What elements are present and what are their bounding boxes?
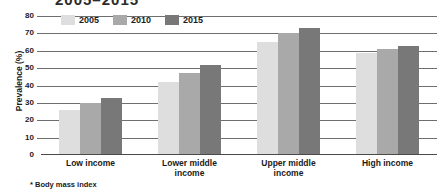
legend-label: 2015 (183, 16, 203, 25)
bar-group (41, 16, 140, 155)
bar-chart: 2005–2015 Prevalence (%) 807060504030201… (0, 0, 444, 192)
legend-item-2010: 2010 (113, 15, 151, 25)
footnote: * Body mass index (30, 180, 97, 189)
y-axis-tick-labels: 80706050403020100 (4, 0, 34, 192)
bar-2005 (356, 53, 377, 156)
x-axis-line (41, 154, 437, 156)
x-category-label-line: Lower middle (140, 158, 239, 168)
y-tick-label: 30 (4, 99, 34, 107)
y-tick-label: 80 (4, 12, 34, 20)
y-tick-label: 50 (4, 64, 34, 72)
y-tick-label: 10 (4, 134, 34, 142)
bar-2015 (101, 98, 122, 155)
bar-2015 (398, 46, 419, 155)
bar-2010 (377, 49, 398, 155)
bar-2010 (80, 103, 101, 155)
y-tick-label: 40 (4, 82, 34, 90)
legend-swatch-icon (165, 15, 179, 25)
bar-2015 (200, 65, 221, 155)
bar-2005 (59, 110, 80, 155)
x-category-label: Lower middleincome (140, 158, 239, 178)
x-axis-category-labels: Low incomeLower middleincomeUpper middle… (41, 158, 437, 178)
bar-2010 (179, 73, 200, 155)
x-category-label: High income (338, 158, 437, 178)
bar-2005 (158, 82, 179, 155)
plot-area (41, 16, 437, 155)
y-tick-label: 70 (4, 29, 34, 37)
x-category-label-line: income (239, 168, 338, 178)
legend: 200520102015 (61, 15, 203, 25)
legend-item-2005: 2005 (61, 15, 99, 25)
x-category-label-line: Upper middle (239, 158, 338, 168)
y-tick-label: 20 (4, 116, 34, 124)
y-tick-label: 60 (4, 47, 34, 55)
legend-label: 2005 (79, 16, 99, 25)
x-category-label: Upper middleincome (239, 158, 338, 178)
x-category-label-line: High income (338, 158, 437, 168)
chart-title-partial: 2005–2015 (55, 0, 139, 8)
bar-2015 (299, 28, 320, 155)
x-category-label-line: Low income (41, 158, 140, 168)
x-category-label: Low income (41, 158, 140, 178)
legend-swatch-icon (61, 15, 75, 25)
bar-group (338, 16, 437, 155)
legend-label: 2010 (131, 16, 151, 25)
x-category-label-line: income (140, 168, 239, 178)
legend-item-2015: 2015 (165, 15, 203, 25)
legend-swatch-icon (113, 15, 127, 25)
bar-groups (41, 16, 437, 155)
bar-2005 (257, 42, 278, 155)
bar-group (140, 16, 239, 155)
y-tick-label: 0 (4, 151, 34, 159)
bar-group (239, 16, 338, 155)
bar-2010 (278, 33, 299, 155)
